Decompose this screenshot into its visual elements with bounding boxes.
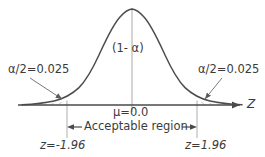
distribution-svg: [0, 0, 265, 157]
z-critical-left-label: z=-1.96: [40, 140, 85, 152]
acceptable-region-label: Acceptable region: [84, 121, 188, 133]
right-alpha-leader-line: [205, 78, 222, 99]
confidence-level-label: (1- α): [112, 43, 144, 55]
mean-label: μ=0.0: [113, 107, 148, 119]
z-critical-right-label: z=1.96: [185, 140, 226, 152]
normal-distribution-figure: α/2=0.025 α/2=0.025 (1- α) μ=0.0 Accepta…: [0, 0, 265, 157]
alpha-left-label: α/2=0.025: [8, 64, 69, 76]
left-alpha-leader-line: [30, 78, 62, 99]
alpha-right-label: α/2=0.025: [198, 64, 259, 76]
z-axis-label: Z: [247, 98, 255, 110]
